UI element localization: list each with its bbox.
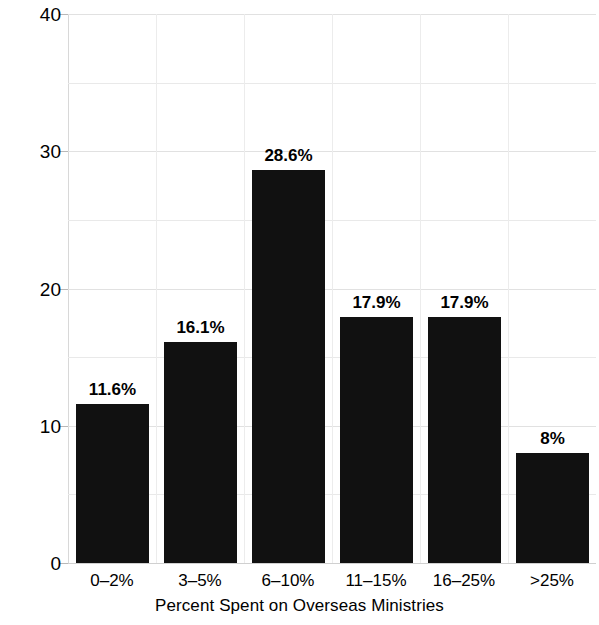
x-tick-label: 16–25% (420, 572, 508, 589)
bar (76, 404, 149, 563)
x-axis-line (68, 563, 596, 564)
gridline-vertical (332, 14, 333, 563)
gridline-vertical (156, 14, 157, 563)
bar-chart: Percent 11.6%16.1%28.6%17.9%17.9%8% 0102… (0, 0, 599, 625)
bar-value-label: 17.9% (340, 294, 413, 311)
y-tick-label: 30 (40, 142, 61, 161)
bar (340, 317, 413, 563)
y-tick-label: 10 (40, 416, 61, 435)
x-axis-title: Percent Spent on Overseas Ministries (0, 596, 599, 616)
y-tick-label: 20 (40, 279, 61, 298)
y-tick-mark (60, 563, 68, 564)
plot-area: 11.6%16.1%28.6%17.9%17.9%8% (68, 14, 596, 563)
gridline-vertical (420, 14, 421, 563)
x-tick-label: 6–10% (244, 572, 332, 589)
gridline-vertical (244, 14, 245, 563)
bar (252, 170, 325, 563)
gridline-vertical (508, 14, 509, 563)
y-tick-mark (60, 289, 68, 290)
bar (428, 317, 501, 563)
x-tick-label: 0–2% (68, 572, 156, 589)
y-tick-mark (60, 151, 68, 152)
bar-value-label: 28.6% (252, 147, 325, 164)
bar-value-label: 8% (516, 430, 589, 447)
x-tick-label: >25% (508, 572, 596, 589)
y-axis-title: Percent (0, 0, 26, 625)
y-tick-mark (60, 14, 68, 15)
bar (164, 342, 237, 563)
y-tick-label: 0 (50, 554, 61, 573)
x-tick-label: 3–5% (156, 572, 244, 589)
bar-value-label: 17.9% (428, 294, 501, 311)
bar-value-label: 11.6% (76, 381, 149, 398)
y-tick-label: 40 (40, 5, 61, 24)
bar (516, 453, 589, 563)
bar-value-label: 16.1% (164, 319, 237, 336)
x-tick-label: 11–15% (332, 572, 420, 589)
y-tick-mark (60, 426, 68, 427)
